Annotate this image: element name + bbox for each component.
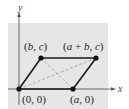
x-axis-arrow-icon (111, 87, 116, 91)
label-origin: (0, 0) (22, 93, 46, 106)
label-b-c: (b, c) (24, 40, 48, 53)
vertex-b-c (38, 55, 43, 60)
vertex-origin (16, 86, 21, 91)
vertex-apb-c (93, 55, 98, 60)
x-axis-label: x (117, 83, 123, 94)
label-apb-c: (a + b, c) (63, 40, 104, 53)
vertex-a-0 (70, 86, 75, 91)
y-axis-label: y (17, 2, 23, 13)
parallelogram-diagram: y x (0, 0) (a, 0) (b, c) (a + b, c) (0, 0, 129, 109)
label-a-0: (a, 0) (70, 93, 94, 106)
